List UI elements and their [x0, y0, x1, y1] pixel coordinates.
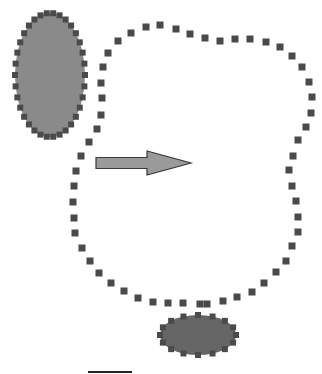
gray-ellipse-top	[12, 10, 88, 139]
diagram-canvas	[0, 0, 322, 374]
dark-ellipse-bottom	[157, 312, 239, 358]
right-arrow-icon	[96, 151, 191, 175]
